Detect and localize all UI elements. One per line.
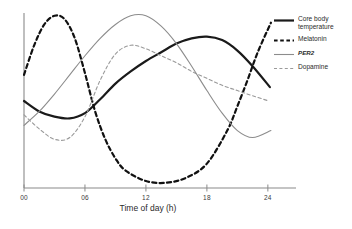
series-line-melatonin [24,15,271,183]
chart-legend: Core body temperatureMelatoninPER2Dopami… [274,15,352,77]
x-tick-label-24: 24 [264,194,272,201]
legend-swatch-icon [274,63,294,74]
x-axis-title: Time of day (h) [120,203,177,213]
legend-label: Dopamine [298,63,328,71]
x-tick-label-12: 12 [142,194,150,201]
legend-item-core-body-temperature: Core body temperature [274,15,352,32]
legend-swatch-icon [274,49,294,60]
legend-item-dopamine: Dopamine [274,63,352,74]
legend-label: Core body temperature [298,15,352,32]
chart-series-group [24,15,271,184]
x-tick-label-00: 00 [20,194,28,201]
legend-item-per2: PER2 [274,49,352,60]
chart-figure: 0006121824 Time of day (h) Core body tem… [0,0,352,229]
legend-swatch-icon [274,15,294,26]
legend-swatch-icon [274,35,294,46]
legend-item-melatonin: Melatonin [274,35,352,46]
series-line-per2 [24,15,271,138]
legend-label: Melatonin [298,35,327,43]
chart-axes [24,13,296,192]
x-tick-label-18: 18 [203,194,211,201]
x-tick-label-06: 06 [81,194,89,201]
legend-label: PER2 [298,49,314,57]
